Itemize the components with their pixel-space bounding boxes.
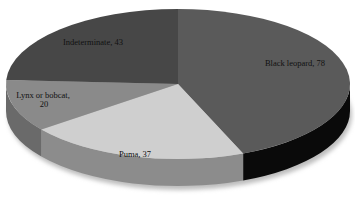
label-puma: Puma, 37 — [119, 149, 151, 159]
pie-slices — [6, 9, 350, 159]
label-lynx-value: 20 — [40, 99, 49, 109]
pie-chart: Black leopard, 78 Puma, 37 Lynx or bobca… — [0, 0, 355, 223]
label-indeterminate: Indeterminate, 43 — [63, 37, 123, 47]
label-black-leopard: Black leopard, 78 — [265, 58, 325, 68]
